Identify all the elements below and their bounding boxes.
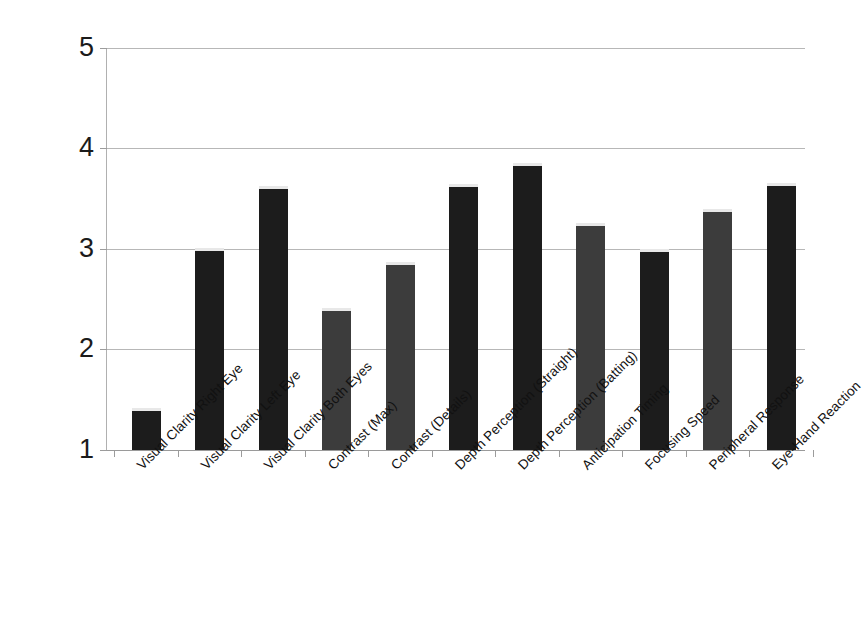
y-tick-2 — [100, 349, 107, 350]
bar-7 — [576, 223, 605, 450]
y-axis-label-1: 1 — [50, 436, 94, 463]
bar-4 — [386, 262, 415, 450]
y-axis-labels: 5 4 3 2 1 — [16, 0, 94, 635]
y-axis-label-2: 2 — [50, 335, 94, 362]
x-tick-end — [813, 450, 814, 457]
x-tick-4 — [368, 450, 369, 457]
bar-5 — [449, 184, 478, 450]
x-tick-5 — [432, 450, 433, 457]
y-axis-label-5: 5 — [50, 34, 94, 61]
x-tick-1 — [178, 450, 179, 457]
x-tick-2 — [241, 450, 242, 457]
x-tick-6 — [495, 450, 496, 457]
x-tick-3 — [305, 450, 306, 457]
x-tick-8 — [622, 450, 623, 457]
bar-series — [107, 48, 805, 450]
bar-6 — [513, 163, 542, 450]
y-axis-label-4: 4 — [50, 134, 94, 161]
plot-area — [107, 48, 805, 450]
x-tick-0 — [114, 450, 115, 457]
bar-8 — [640, 249, 669, 450]
gridline-1-baseline — [107, 450, 805, 451]
bar-0 — [132, 408, 161, 450]
y-tick-3 — [100, 249, 107, 250]
bar-2 — [259, 186, 288, 450]
y-tick-1 — [100, 450, 107, 451]
bar-3 — [322, 308, 351, 450]
bar-9 — [703, 209, 732, 450]
bar-1 — [195, 248, 224, 450]
x-tick-9 — [686, 450, 687, 457]
y-tick-5 — [100, 48, 107, 49]
x-tick-10 — [749, 450, 750, 457]
bar-10 — [767, 183, 796, 450]
x-tick-7 — [559, 450, 560, 457]
y-axis-label-3: 3 — [50, 235, 94, 262]
y-tick-4 — [100, 148, 107, 149]
